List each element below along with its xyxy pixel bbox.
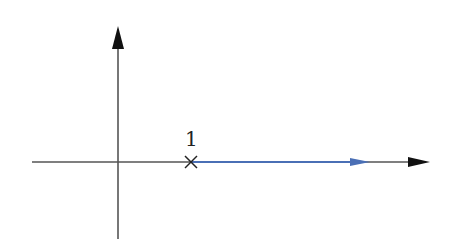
pole-label: 1 bbox=[185, 127, 198, 151]
arrow-right-icon bbox=[408, 157, 430, 167]
root-locus-diagram: 1 bbox=[0, 0, 452, 239]
locus-branch bbox=[191, 158, 370, 166]
imaginary-axis bbox=[112, 26, 124, 239]
locus-arrow-icon bbox=[350, 158, 370, 166]
arrow-up-icon bbox=[112, 26, 124, 49]
